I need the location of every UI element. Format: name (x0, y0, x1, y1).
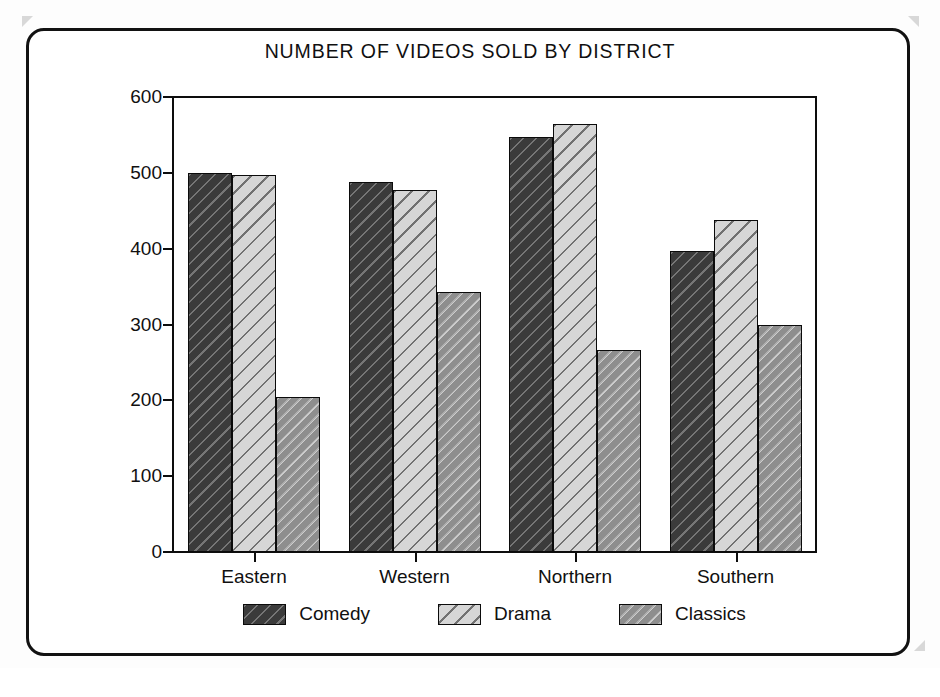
x-axis-label-eastern: Eastern (221, 566, 286, 588)
scan-artifact-bottom-right (914, 640, 925, 651)
y-axis-tick-label: 600 (116, 86, 162, 108)
y-axis-tick-label: 300 (116, 314, 162, 336)
bar-northern-comedy (509, 137, 553, 552)
x-axis-label-southern: Southern (697, 566, 774, 588)
legend-label: Comedy (299, 603, 370, 625)
legend-swatch-classics-icon (619, 604, 662, 625)
bar-eastern-comedy (188, 173, 232, 552)
y-axis-tick-label: 100 (116, 465, 162, 487)
legend-item-drama: Drama (438, 603, 551, 625)
y-axis-tick-label: 500 (116, 162, 162, 184)
legend-item-classics: Classics (619, 603, 746, 625)
page-edge-shadow (0, 668, 940, 697)
y-axis-tick-mark (163, 324, 174, 326)
bar-western-comedy (349, 182, 393, 552)
y-axis-tick-mark (163, 475, 174, 477)
y-axis-tick-mark (163, 551, 174, 553)
y-axis-tick-mark (163, 399, 174, 401)
y-axis-tick-mark (163, 96, 174, 98)
y-axis-tick-label: 200 (116, 389, 162, 411)
x-axis-tick-mark (254, 552, 256, 562)
scan-artifact-top-left (22, 16, 33, 27)
legend-swatch-comedy-icon (243, 604, 286, 625)
bar-western-classics (437, 292, 481, 552)
legend-label: Drama (494, 603, 551, 625)
bar-western-drama (393, 190, 437, 552)
bar-southern-classics (758, 325, 802, 552)
bar-eastern-classics (276, 397, 320, 552)
plot-area: 0100200300400500600EasternWesternNorther… (174, 97, 816, 552)
bar-southern-comedy (670, 251, 714, 552)
bar-eastern-drama (232, 175, 276, 552)
legend-swatch-drama-icon (438, 604, 481, 625)
bar-southern-drama (714, 220, 758, 552)
y-axis-tick-label: 0 (116, 541, 162, 563)
legend-item-comedy: Comedy (243, 603, 370, 625)
bar-northern-drama (553, 124, 597, 552)
bar-northern-classics (597, 350, 641, 552)
y-axis-tick-label: 400 (116, 238, 162, 260)
scan-artifact-top-right (908, 16, 919, 27)
y-axis-tick-mark (163, 172, 174, 174)
x-axis-label-western: Western (379, 566, 449, 588)
x-axis-tick-mark (736, 552, 738, 562)
y-axis-tick-mark (163, 248, 174, 250)
x-axis-label-northern: Northern (538, 566, 612, 588)
x-axis-tick-mark (575, 552, 577, 562)
x-axis-tick-mark (415, 552, 417, 562)
chart-title: NUMBER OF VIDEOS SOLD BY DISTRICT (0, 40, 940, 63)
legend-label: Classics (675, 603, 746, 625)
chart-legend: ComedyDramaClassics (172, 603, 817, 625)
scanned-page: NUMBER OF VIDEOS SOLD BY DISTRICT 010020… (0, 0, 940, 697)
